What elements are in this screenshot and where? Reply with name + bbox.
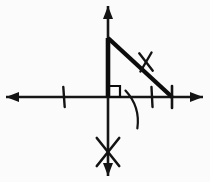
arrowhead-left-icon [6,92,19,102]
coordinate-axes-group [6,6,203,176]
x-axis-tick-negative [63,87,64,107]
arrowhead-right-icon [190,92,203,102]
right-angle-marker [109,86,120,97]
x-axis-tick-positive-inner [151,87,152,107]
triangle-hypotenuse [108,38,172,97]
geometry-figure-svg [0,0,210,182]
geometry-figure-container: Right triangle on coordinate axes [0,0,210,182]
arrowhead-down-icon [103,163,113,176]
triangle-group [108,38,172,97]
arrowhead-up-icon [103,6,113,19]
